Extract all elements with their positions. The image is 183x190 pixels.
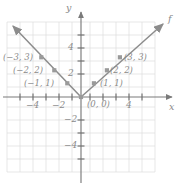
point-label-3-3: (3, 3)	[124, 52, 147, 62]
point-label-neg3-3: (−3, 3)	[3, 52, 33, 62]
point-label-neg1-1: (−1, 1)	[24, 78, 54, 88]
y-axis-label: y	[66, 2, 71, 13]
data-point	[79, 95, 83, 99]
point-label-neg2-2: (−2, 2)	[13, 65, 43, 75]
graph-figure: y x f −4 −2 4 4 2 −2 −4 (−3, 3) (−2, 2) …	[0, 0, 183, 190]
x-tick-label-pos4: 4	[126, 100, 132, 110]
x-axis-label: x	[169, 101, 174, 112]
point-label-2-2: (2, 2)	[110, 65, 133, 75]
x-tick-label-neg4: −4	[26, 100, 39, 110]
x-tick-label-neg2: −2	[52, 100, 65, 110]
data-point	[39, 55, 43, 59]
y-tick-label-pos4: 4	[68, 42, 74, 52]
y-tick-label-pos2: 2	[68, 68, 74, 78]
function-name-label: f	[168, 13, 172, 24]
point-label-0-0: (0, 0)	[87, 99, 110, 109]
y-tick-label-neg4: −4	[64, 140, 77, 150]
data-point	[105, 68, 109, 72]
point-label-1-1: (1, 1)	[100, 78, 123, 88]
data-point	[118, 55, 122, 59]
data-point	[65, 81, 69, 85]
data-point	[92, 81, 96, 85]
data-point	[52, 68, 56, 72]
coordinate-plane-svg	[0, 0, 183, 190]
y-tick-label-neg2: −2	[64, 114, 77, 124]
